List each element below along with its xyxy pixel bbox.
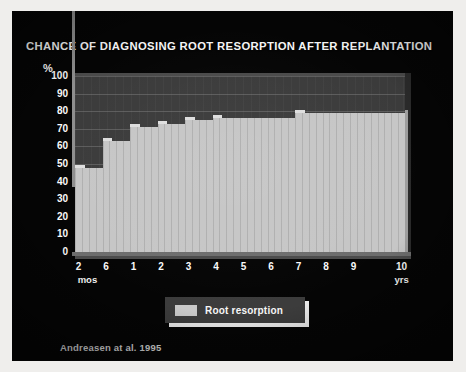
bar xyxy=(357,113,364,252)
y-axis-tick-50: 50 xyxy=(38,159,68,169)
x-axis-tick-9-10: 9 xyxy=(341,261,365,272)
y-axis-tick-40: 40 xyxy=(38,177,68,187)
y-axis-tick-30: 30 xyxy=(38,194,68,204)
bar xyxy=(295,113,302,252)
bar xyxy=(178,124,185,252)
legend-label-root-resorption: Root resorption xyxy=(205,305,283,316)
x-axis-tick-3-4: 3 xyxy=(176,261,200,272)
bar xyxy=(329,113,336,252)
bar xyxy=(274,118,281,252)
bar xyxy=(144,127,151,252)
bar xyxy=(288,118,295,252)
bar xyxy=(192,120,199,252)
bar xyxy=(109,141,116,252)
bar xyxy=(213,118,220,252)
bar xyxy=(323,113,330,252)
x-axis-tick-7-8: 7 xyxy=(286,261,310,272)
y-axis-tick-20: 20 xyxy=(38,212,68,222)
x-axis-tick-8-9: 8 xyxy=(314,261,338,272)
bar xyxy=(206,120,213,252)
bar xyxy=(171,124,178,252)
bar xyxy=(164,124,171,252)
x-axis-unit-months: mos xyxy=(70,274,104,285)
axis-floor-shadow xyxy=(75,256,411,259)
bar xyxy=(391,113,398,252)
bar xyxy=(116,141,123,252)
x-axis-tick-10-11: 10 xyxy=(390,261,414,272)
bar xyxy=(185,120,192,252)
bar xyxy=(233,118,240,252)
bar xyxy=(336,113,343,252)
y-axis-tick-90: 90 xyxy=(38,89,68,99)
x-axis-tick-1-2: 1 xyxy=(121,261,145,272)
slide-canvas: CHANCE OF DIAGNOSING ROOT RESORPTION AFT… xyxy=(12,11,453,361)
bar xyxy=(350,113,357,252)
bar xyxy=(75,168,82,252)
x-axis-tick-6-1: 6 xyxy=(94,261,118,272)
y-axis-tick-70: 70 xyxy=(38,124,68,134)
bar xyxy=(89,168,96,252)
bar xyxy=(82,168,89,252)
bar xyxy=(281,118,288,252)
y-axis-tick-0: 0 xyxy=(38,247,68,257)
bar xyxy=(226,118,233,252)
y-axis-tick-100: 100 xyxy=(38,71,68,81)
legend-swatch-root-resorption xyxy=(175,305,197,316)
bar xyxy=(268,118,275,252)
bar xyxy=(371,113,378,252)
x-axis-tick-6-7: 6 xyxy=(259,261,283,272)
bar xyxy=(378,113,385,252)
x-axis-tick-2-3: 2 xyxy=(149,261,173,272)
y-axis-tick-60: 60 xyxy=(38,141,68,151)
bar xyxy=(309,113,316,252)
x-axis-tick-4-5: 4 xyxy=(204,261,228,272)
bar xyxy=(158,124,165,252)
bar xyxy=(254,118,261,252)
bar xyxy=(364,113,371,252)
bar xyxy=(123,141,130,252)
x-axis-tick-5-6: 5 xyxy=(231,261,255,272)
bar xyxy=(343,113,350,252)
chart-legend: Root resorption xyxy=(165,297,305,323)
x-axis-tick-2-0: 2 xyxy=(66,261,90,272)
bar xyxy=(199,120,206,252)
bar xyxy=(130,127,137,252)
x-axis-unit-years: yrs xyxy=(385,274,419,285)
bar-right-face xyxy=(405,110,408,252)
image-frame: CHANCE OF DIAGNOSING ROOT RESORPTION AFT… xyxy=(0,0,466,372)
bar xyxy=(219,118,226,252)
bar xyxy=(261,118,268,252)
bar xyxy=(103,141,110,252)
bar xyxy=(302,113,309,252)
bar xyxy=(384,113,391,252)
y-axis-tick-80: 80 xyxy=(38,106,68,116)
bar xyxy=(96,168,103,252)
bar xyxy=(240,118,247,252)
bar xyxy=(316,113,323,252)
bar-series-root-resorption xyxy=(75,76,405,252)
bar xyxy=(398,113,405,252)
bar xyxy=(137,127,144,252)
y-axis-tick-10: 10 xyxy=(38,229,68,239)
bar xyxy=(151,127,158,252)
bar xyxy=(247,118,254,252)
citation-text: Andreasen at al. 1995 xyxy=(60,342,161,353)
